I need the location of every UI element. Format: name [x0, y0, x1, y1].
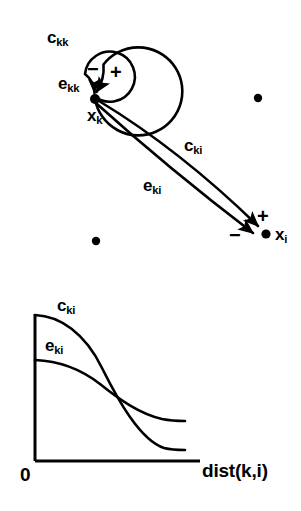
label-node-x-i: xi	[275, 226, 287, 243]
chart-x-axis-label: dist(k,i)	[202, 461, 268, 480]
self-loop-c-kk	[95, 47, 182, 135]
figure-root: ckk ekk − + xk cki eki + − xi cki eki 0 …	[0, 0, 301, 511]
node-x-i	[261, 229, 270, 238]
sign-c-ki-plus: +	[257, 206, 268, 226]
diagram-vector-layer	[0, 0, 301, 511]
label-c-kk: ckk	[47, 29, 68, 46]
sign-e-ki-minus: −	[229, 225, 240, 245]
node-dot-bottom-left	[92, 237, 100, 245]
label-node-x-k: xk	[87, 107, 102, 124]
label-e-kk: ekk	[58, 75, 79, 92]
curve-c-ki	[35, 315, 185, 450]
node-dot-right	[254, 94, 262, 102]
sign-c-kk-plus: +	[110, 62, 121, 82]
label-c-ki: cki	[184, 137, 202, 154]
sign-e-kk-minus: −	[87, 59, 98, 79]
chart-x-origin-label: 0	[20, 465, 30, 484]
label-e-ki: eki	[143, 177, 161, 194]
chart-label-e-ki: eki	[45, 337, 63, 354]
chart-label-c-ki: cki	[57, 297, 75, 314]
arrow-e-ki	[97, 104, 253, 233]
curve-e-ki	[35, 360, 185, 421]
arrow-c-ki	[99, 101, 258, 226]
node-x-k	[90, 94, 100, 104]
